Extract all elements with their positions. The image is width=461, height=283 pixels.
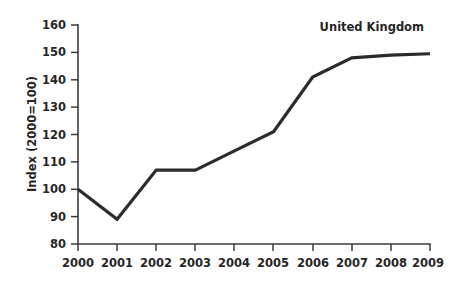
x-tick-label: 2006: [297, 256, 329, 270]
x-tick-label: 2009: [412, 256, 444, 270]
y-axis-title: Index (2000=100): [25, 76, 39, 192]
y-tick-marks: [71, 25, 78, 244]
x-tick-label: 2003: [179, 256, 211, 270]
chart-title: United Kingdom: [320, 20, 424, 34]
x-tick-label: 2008: [375, 256, 407, 270]
y-tick-label: 90: [50, 210, 66, 224]
x-tick-marks: [78, 244, 430, 251]
x-tick-label: 2005: [257, 256, 289, 270]
x-tick-labels: 2000 2001 2002 2003 2004 2005 2006 2007 …: [62, 256, 444, 270]
y-tick-label: 130: [42, 100, 66, 114]
data-series-line: [78, 54, 430, 220]
x-tick-label: 2000: [62, 256, 94, 270]
chart-container: 160 150 140 130 120 110 100 90 80 2000 2…: [0, 0, 461, 283]
line-chart: 160 150 140 130 120 110 100 90 80 2000 2…: [0, 0, 461, 283]
y-tick-label: 110: [42, 155, 66, 169]
x-tick-label: 2004: [218, 256, 250, 270]
y-tick-label: 120: [42, 128, 66, 142]
y-tick-label: 160: [42, 18, 66, 32]
y-tick-label: 150: [42, 45, 66, 59]
x-tick-label: 2002: [140, 256, 172, 270]
y-tick-label: 100: [42, 182, 66, 196]
x-tick-label: 2007: [336, 256, 368, 270]
y-tick-labels: 160 150 140 130 120 110 100 90 80: [42, 18, 66, 251]
x-tick-label: 2001: [101, 256, 133, 270]
y-tick-label: 140: [42, 73, 66, 87]
y-tick-label: 80: [50, 237, 66, 251]
